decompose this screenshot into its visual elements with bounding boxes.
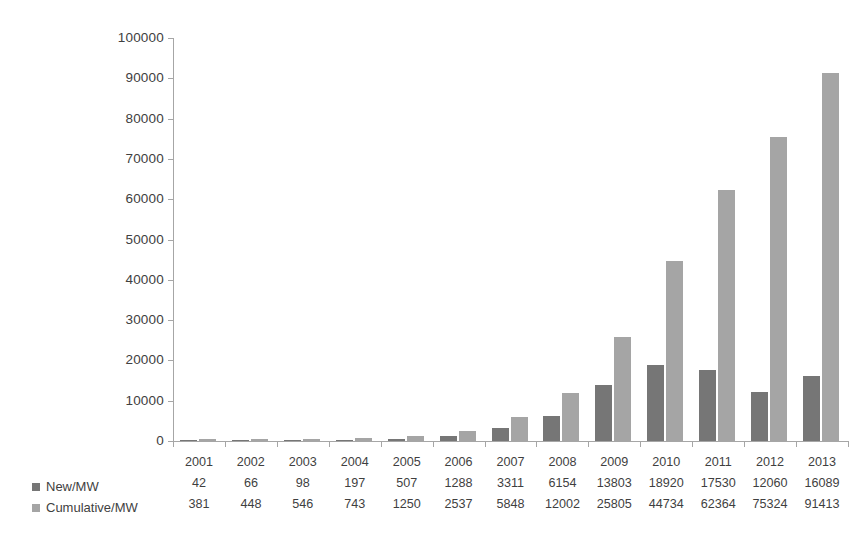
data-table-cumulative-cell: 5848 xyxy=(485,497,537,512)
y-axis-tick-label: 0 xyxy=(156,432,164,449)
y-axis-tick-label: 70000 xyxy=(125,150,164,167)
x-axis-tick-mark xyxy=(848,441,849,447)
legend-item-new: New/MW xyxy=(32,479,99,495)
bar-new xyxy=(232,440,249,442)
bar-new xyxy=(284,440,301,442)
x-axis-tick-mark xyxy=(796,441,797,447)
data-table-year-cell: 2006 xyxy=(433,455,485,470)
data-table-new-cell: 42 xyxy=(173,476,225,491)
plot-area: 1000009000080000700006000050000400003000… xyxy=(173,38,848,441)
bar-group xyxy=(381,38,433,441)
data-table-new-cell: 98 xyxy=(277,476,329,491)
data-table-year-cell: 2003 xyxy=(277,455,329,470)
data-table-new-cell: 507 xyxy=(381,476,433,491)
x-axis-tick-mark xyxy=(277,441,278,447)
x-axis-tick-mark xyxy=(640,441,641,447)
bar-new xyxy=(751,392,768,441)
y-axis-tick-label: 10000 xyxy=(125,392,164,409)
data-table-new-cell: 1288 xyxy=(433,476,485,491)
bar-cumulative xyxy=(770,137,787,441)
data-table-new-cell: 197 xyxy=(329,476,381,491)
data-table-cumulative-cell: 743 xyxy=(329,497,381,512)
bar-cumulative xyxy=(251,439,268,441)
data-table-year-cell: 2007 xyxy=(485,455,537,470)
data-table-cumulative-cell: 62364 xyxy=(692,497,744,512)
bar-cumulative xyxy=(822,73,839,441)
data-table-cumulative-cell: 546 xyxy=(277,497,329,512)
y-axis-tick-label: 20000 xyxy=(125,351,164,368)
bar-group xyxy=(329,38,381,441)
x-axis-tick-mark xyxy=(588,441,589,447)
x-axis-tick-mark xyxy=(381,441,382,447)
bar-new xyxy=(647,365,664,441)
x-axis-tick-mark xyxy=(225,441,226,447)
bar-cumulative xyxy=(614,337,631,441)
x-axis-tick-mark xyxy=(173,441,174,447)
y-axis-tick-label: 50000 xyxy=(125,231,164,248)
x-axis-tick-mark xyxy=(536,441,537,447)
data-table-year-cell: 2001 xyxy=(173,455,225,470)
data-table-year-cell: 2012 xyxy=(744,455,796,470)
bar-new xyxy=(388,439,405,441)
data-table-new-cell: 13803 xyxy=(588,476,640,491)
legend-swatch-new-icon xyxy=(32,483,40,491)
data-table-year-cell: 2013 xyxy=(796,455,848,470)
chart-data-table: New/MW Cumulative/MW 2001423812002664482… xyxy=(0,452,863,522)
bar-group xyxy=(433,38,485,441)
data-table-cumulative-cell: 44734 xyxy=(640,497,692,512)
data-table-year-cell: 2002 xyxy=(225,455,277,470)
bar-new xyxy=(180,440,197,442)
bar-cumulative xyxy=(303,439,320,441)
data-table-cumulative-cell: 1250 xyxy=(381,497,433,512)
bar-group xyxy=(796,38,848,441)
data-table-cumulative-cell: 75324 xyxy=(744,497,796,512)
legend-label-new: New/MW xyxy=(46,479,99,495)
y-axis-tick-label: 100000 xyxy=(118,29,164,46)
data-table-cumulative-cell: 12002 xyxy=(536,497,588,512)
data-table-year-cell: 2004 xyxy=(329,455,381,470)
bar-new xyxy=(440,436,457,441)
bar-chart: 1000009000080000700006000050000400003000… xyxy=(0,0,863,551)
x-axis-tick-mark xyxy=(485,441,486,447)
data-table-cumulative-cell: 25805 xyxy=(588,497,640,512)
data-table-cumulative-cell: 448 xyxy=(225,497,277,512)
x-axis-line xyxy=(173,441,848,442)
bar-group xyxy=(692,38,744,441)
data-table-new-cell: 16089 xyxy=(796,476,848,491)
data-table-year-cell: 2010 xyxy=(640,455,692,470)
bar-new xyxy=(803,376,820,441)
x-axis-tick-mark xyxy=(692,441,693,447)
y-axis-tick-label: 80000 xyxy=(125,110,164,127)
bar-cumulative xyxy=(511,417,528,441)
bar-new xyxy=(492,428,509,441)
bar-new xyxy=(699,370,716,441)
data-table-year-cell: 2011 xyxy=(692,455,744,470)
bar-group xyxy=(225,38,277,441)
data-table-cumulative-cell: 381 xyxy=(173,497,225,512)
bar-group xyxy=(277,38,329,441)
y-axis-tick-label: 60000 xyxy=(125,190,164,207)
bar-cumulative xyxy=(666,261,683,441)
data-table-new-cell: 66 xyxy=(225,476,277,491)
y-axis-tick-label: 30000 xyxy=(125,311,164,328)
data-table-year-cell: 2005 xyxy=(381,455,433,470)
bar-cumulative xyxy=(459,431,476,441)
bar-new xyxy=(543,416,560,441)
legend-label-cumulative: Cumulative/MW xyxy=(46,500,138,516)
data-table-new-cell: 6154 xyxy=(536,476,588,491)
bar-group xyxy=(744,38,796,441)
legend-swatch-cumulative-icon xyxy=(32,504,40,512)
bar-group xyxy=(536,38,588,441)
x-axis-tick-mark xyxy=(744,441,745,447)
bar-group xyxy=(173,38,225,441)
legend-item-cumulative: Cumulative/MW xyxy=(32,500,138,516)
y-axis-tick-label: 90000 xyxy=(125,69,164,86)
bar-new xyxy=(595,385,612,441)
data-table-cumulative-cell: 2537 xyxy=(433,497,485,512)
bar-cumulative xyxy=(199,439,216,441)
data-table-year-cell: 2009 xyxy=(588,455,640,470)
data-table-columns: 2001423812002664482003985462004197743200… xyxy=(173,452,848,522)
bar-group xyxy=(485,38,537,441)
bar-new xyxy=(336,440,353,442)
data-table-new-cell: 17530 xyxy=(692,476,744,491)
